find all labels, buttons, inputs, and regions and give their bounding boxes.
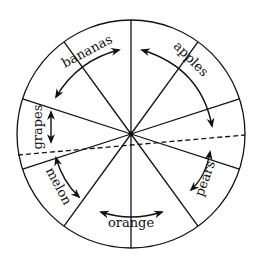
label-bananas: bananas bbox=[59, 31, 115, 70]
spoke-line bbox=[131, 99, 239, 134]
spoke-line bbox=[131, 134, 239, 169]
label-grapes: grapes bbox=[30, 105, 45, 150]
label-orange: orange bbox=[108, 215, 154, 230]
label-pears: pears bbox=[191, 159, 218, 199]
spoke-line bbox=[131, 134, 198, 226]
fruit-wheel-diagram: bananas apples grapes melon orange pears bbox=[0, 0, 261, 269]
spoke-line bbox=[64, 134, 131, 226]
center-dot bbox=[129, 132, 134, 137]
label-apples: apples bbox=[171, 38, 212, 79]
label-melon: melon bbox=[43, 165, 75, 208]
